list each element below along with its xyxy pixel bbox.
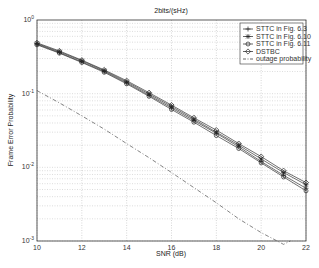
legend-entry: DSTBC	[256, 48, 280, 55]
frame-error-chart: 1012141618202210010-110-210-3 2bits/(sHz…	[0, 0, 319, 268]
y-tick-label: 10-3	[22, 235, 34, 244]
legend-entry: outage probability	[256, 55, 312, 63]
y-tick-label: 10-2	[22, 161, 34, 170]
x-tick-label: 10	[33, 244, 41, 251]
x-tick-label: 20	[257, 244, 265, 251]
legend: STTC in Fig. 6.3STTC in Fig. 6.10STTC in…	[240, 23, 312, 64]
x-axis-label: SNR (dB)	[156, 250, 186, 258]
x-tick-label: 12	[78, 244, 86, 251]
x-tick-label: 18	[212, 244, 220, 251]
y-tick-label: 100	[23, 14, 34, 23]
chart-title: 2bits/(sHz)	[154, 7, 187, 15]
y-axis-label: Frame Error Probability	[7, 93, 15, 166]
x-tick-label: 22	[302, 244, 310, 251]
x-tick-label: 14	[123, 244, 131, 251]
y-tick-label: 10-1	[22, 88, 34, 97]
